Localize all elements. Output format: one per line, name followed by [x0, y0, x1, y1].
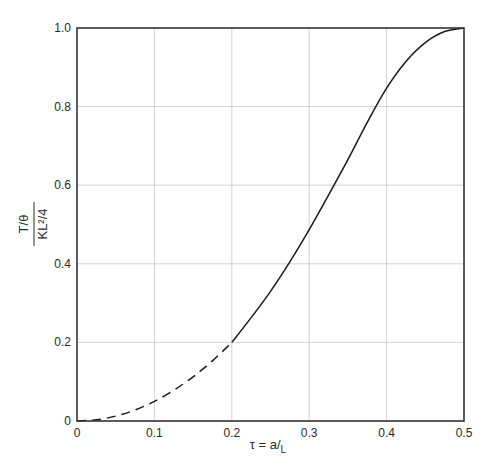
chart: 00.10.20.30.40.5 00.20.40.60.81.0 τ = a/…	[0, 0, 493, 468]
y-axis-label-denominator: KL²/4	[35, 208, 50, 239]
plot-frame	[77, 28, 464, 421]
y-tick-label: 0.4	[54, 257, 71, 271]
y-tick-label: 0.2	[54, 335, 71, 349]
grid-lines	[77, 28, 464, 421]
x-tick-label: 0.4	[378, 426, 395, 440]
x-axis-label: τ = a/L	[250, 437, 287, 455]
y-tick-label: 0.6	[54, 178, 71, 192]
y-tick-label: 0.8	[54, 100, 71, 114]
y-axis-label: T/θ KL²/4	[16, 202, 50, 246]
plot-curves	[77, 28, 464, 421]
x-tick-label: 0.5	[456, 426, 473, 440]
x-tick-label: 0.3	[301, 426, 318, 440]
x-tick-label: 0.1	[146, 426, 163, 440]
x-tick-label: 0	[74, 426, 81, 440]
y-axis-label-numerator: T/θ	[16, 215, 31, 234]
y-tick-label: 1.0	[54, 21, 71, 35]
y-tick-label: 0	[64, 414, 71, 428]
y-tick-labels: 00.20.40.60.81.0	[54, 21, 71, 428]
x-tick-label: 0.2	[223, 426, 240, 440]
